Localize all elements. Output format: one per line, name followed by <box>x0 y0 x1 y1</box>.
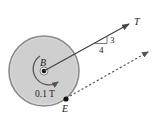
label-b: B <box>40 57 46 68</box>
label-t: T <box>134 16 141 27</box>
point-e-icon <box>63 96 68 101</box>
label-moment: 0.1 T <box>35 89 55 99</box>
diagram-canvas: B T E 0.1 T 3 4 <box>0 0 156 116</box>
label-e: E <box>61 103 68 114</box>
dashed-line-of-action-icon <box>70 52 148 96</box>
label-rise: 3 <box>110 35 115 45</box>
label-run: 4 <box>99 45 104 55</box>
